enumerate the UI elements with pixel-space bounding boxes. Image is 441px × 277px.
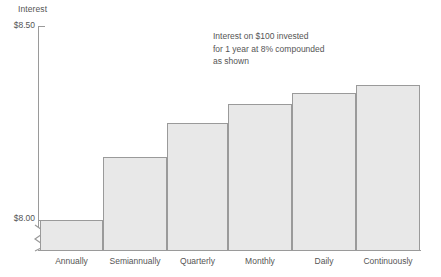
chart-annotation: Interest on $100 invested for 1 year at … bbox=[213, 30, 325, 68]
bar-continuously bbox=[356, 85, 420, 251]
annotation-line-1: Interest on $100 invested bbox=[213, 30, 325, 43]
chart-screenshot: Interest $8.50 $8.00 Annually Semiannual… bbox=[0, 0, 441, 277]
x-axis-label-daily: Daily bbox=[292, 256, 356, 266]
x-axis-label-quarterly: Quarterly bbox=[167, 256, 228, 266]
x-axis-label-semiannually: Semiannually bbox=[103, 256, 167, 266]
x-axis-label-monthly: Monthly bbox=[228, 256, 292, 266]
annotation-line-3: as shown bbox=[213, 55, 325, 68]
annotation-line-2: for 1 year at 8% compounded bbox=[213, 43, 325, 56]
x-axis-label-annually: Annually bbox=[40, 256, 103, 266]
bar-daily bbox=[292, 93, 356, 251]
x-axis-label-continuously: Continuously bbox=[354, 256, 422, 266]
bar-annually bbox=[40, 220, 103, 251]
bar-monthly bbox=[228, 104, 292, 251]
bar-semiannually bbox=[103, 157, 167, 251]
bar-quarterly bbox=[167, 123, 228, 251]
